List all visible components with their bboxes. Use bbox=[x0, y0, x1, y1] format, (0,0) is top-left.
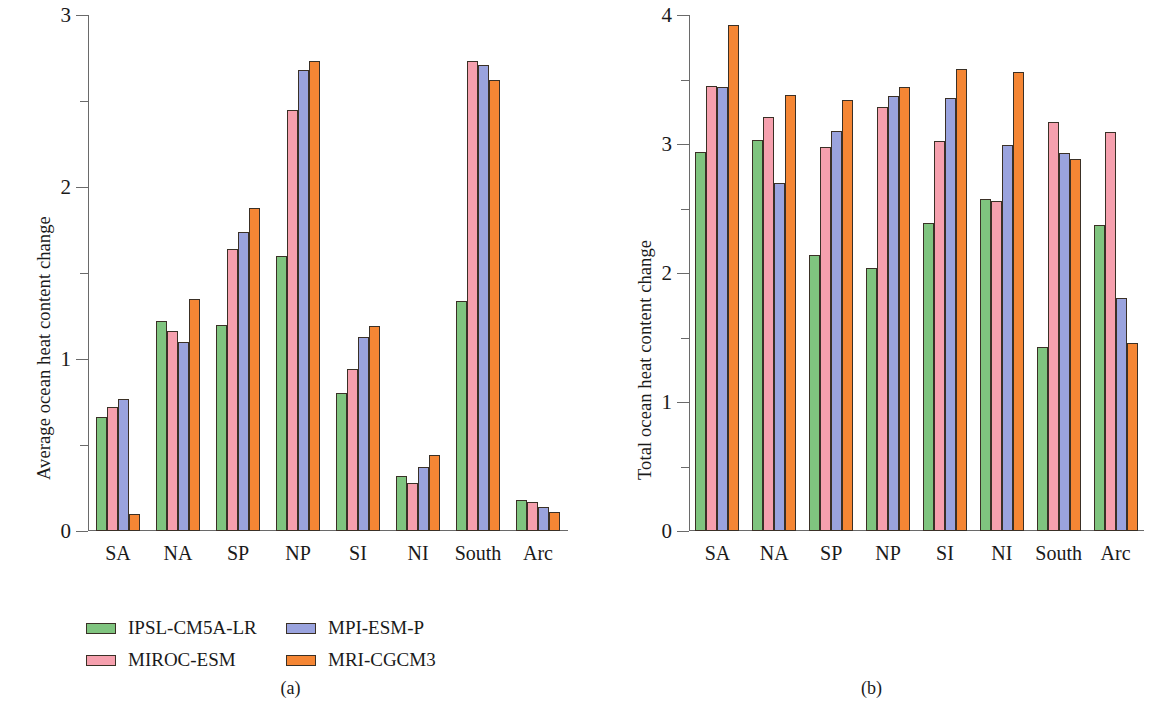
y-tick-major bbox=[76, 187, 88, 188]
legend-entry: IPSL-CM5A-LR bbox=[86, 617, 286, 639]
legend-swatch-icon bbox=[286, 655, 316, 666]
plot-area-a: 0123SANASPNPSINISouthArc bbox=[88, 15, 568, 531]
legend-entry: MRI-CGCM3 bbox=[286, 649, 486, 671]
legend-label: IPSL-CM5A-LR bbox=[128, 617, 257, 639]
bar bbox=[923, 223, 934, 531]
bar-group: NP bbox=[860, 15, 917, 531]
y-tick-minor bbox=[80, 101, 88, 102]
bar bbox=[129, 514, 140, 531]
bar bbox=[489, 80, 500, 531]
bar-group: NA bbox=[746, 15, 803, 531]
bar-group: SA bbox=[88, 15, 148, 531]
y-tick-label: 0 bbox=[61, 521, 72, 542]
bar bbox=[980, 199, 991, 531]
figure-two-panel-bar-charts: 0123SANASPNPSINISouthArcAverage ocean he… bbox=[0, 0, 1162, 709]
bar-group: SI bbox=[917, 15, 974, 531]
bar bbox=[107, 407, 118, 531]
y-axis-title: Average ocean heat content change bbox=[34, 216, 55, 480]
bar-group: NI bbox=[973, 15, 1030, 531]
x-tick-label: SP bbox=[227, 542, 249, 565]
bar bbox=[1059, 153, 1070, 531]
x-tick-label: NA bbox=[760, 542, 789, 565]
bar bbox=[899, 87, 910, 531]
bar bbox=[1105, 132, 1116, 531]
bar bbox=[549, 512, 560, 531]
bar bbox=[752, 140, 763, 531]
bar-group: SA bbox=[689, 15, 746, 531]
bar bbox=[516, 500, 527, 531]
bar bbox=[1116, 298, 1127, 531]
bar-group: NA bbox=[148, 15, 208, 531]
x-tick-label: NP bbox=[285, 542, 311, 565]
x-tick-label: SA bbox=[105, 542, 131, 565]
y-tick-label: 1 bbox=[662, 392, 673, 413]
bar bbox=[96, 417, 107, 531]
y-tick-label: 0 bbox=[662, 521, 673, 542]
bar-groups: SANASPNPSINISouthArc bbox=[689, 15, 1144, 531]
y-tick-minor bbox=[681, 209, 689, 210]
bar bbox=[178, 342, 189, 531]
bar bbox=[418, 467, 429, 531]
bar bbox=[287, 110, 298, 531]
bar bbox=[429, 455, 440, 531]
bar-group: SP bbox=[803, 15, 860, 531]
legend-label: MRI-CGCM3 bbox=[328, 649, 436, 671]
bar bbox=[227, 249, 238, 531]
y-axis-title: Total ocean heat content change bbox=[635, 240, 656, 480]
legend-swatch-icon bbox=[286, 623, 316, 634]
bar bbox=[156, 321, 167, 531]
panel-a: 0123SANASPNPSINISouthArcAverage ocean he… bbox=[0, 0, 581, 709]
bar bbox=[831, 131, 842, 531]
legend-swatch-icon bbox=[86, 623, 116, 634]
bar bbox=[774, 183, 785, 531]
legend-label: MIROC-ESM bbox=[128, 649, 236, 671]
bar bbox=[866, 268, 877, 531]
legend-entry: MPI-ESM-P bbox=[286, 617, 486, 639]
bar bbox=[785, 95, 796, 531]
bar bbox=[842, 100, 853, 531]
bar bbox=[336, 393, 347, 531]
panel-caption: (b) bbox=[581, 678, 1162, 699]
x-tick-label: Arc bbox=[523, 542, 553, 565]
y-tick-minor bbox=[681, 467, 689, 468]
bar bbox=[538, 507, 549, 531]
bar bbox=[238, 232, 249, 531]
bar bbox=[1127, 343, 1138, 531]
bar bbox=[717, 87, 728, 531]
bar bbox=[888, 96, 899, 531]
y-tick-major bbox=[677, 402, 689, 403]
bar-group: NP bbox=[268, 15, 328, 531]
bar bbox=[249, 208, 260, 531]
y-tick-major bbox=[677, 15, 689, 16]
x-tick-label: Arc bbox=[1101, 542, 1131, 565]
x-tick-label: SA bbox=[705, 542, 731, 565]
bar bbox=[347, 369, 358, 531]
legend-swatch-icon bbox=[86, 655, 116, 666]
bar bbox=[1048, 122, 1059, 531]
y-tick-label: 3 bbox=[61, 5, 72, 26]
bar bbox=[1037, 347, 1048, 531]
legend-a: IPSL-CM5A-LRMPI-ESM-PMIROC-ESMMRI-CGCM3 bbox=[86, 612, 506, 676]
plot-area-b: 01234SANASPNPSINISouthArc bbox=[689, 15, 1144, 531]
panel-b: 01234SANASPNPSINISouthArcTotal ocean hea… bbox=[581, 0, 1162, 709]
y-tick-major bbox=[677, 273, 689, 274]
bar bbox=[167, 331, 178, 531]
y-tick-label: 3 bbox=[662, 134, 673, 155]
bar bbox=[456, 301, 467, 531]
bar bbox=[1013, 72, 1024, 531]
bar bbox=[991, 201, 1002, 531]
bar bbox=[189, 299, 200, 531]
bar bbox=[276, 256, 287, 531]
bar bbox=[396, 476, 407, 531]
bar bbox=[1070, 159, 1081, 531]
y-tick-major bbox=[76, 359, 88, 360]
x-tick-label: SP bbox=[820, 542, 842, 565]
bar bbox=[1002, 145, 1013, 531]
bar-group: South bbox=[1030, 15, 1087, 531]
bar bbox=[369, 326, 380, 531]
bar bbox=[298, 70, 309, 531]
y-tick-minor bbox=[80, 445, 88, 446]
legend-label: MPI-ESM-P bbox=[328, 617, 424, 639]
bar-group: Arc bbox=[508, 15, 568, 531]
bar bbox=[706, 86, 717, 531]
